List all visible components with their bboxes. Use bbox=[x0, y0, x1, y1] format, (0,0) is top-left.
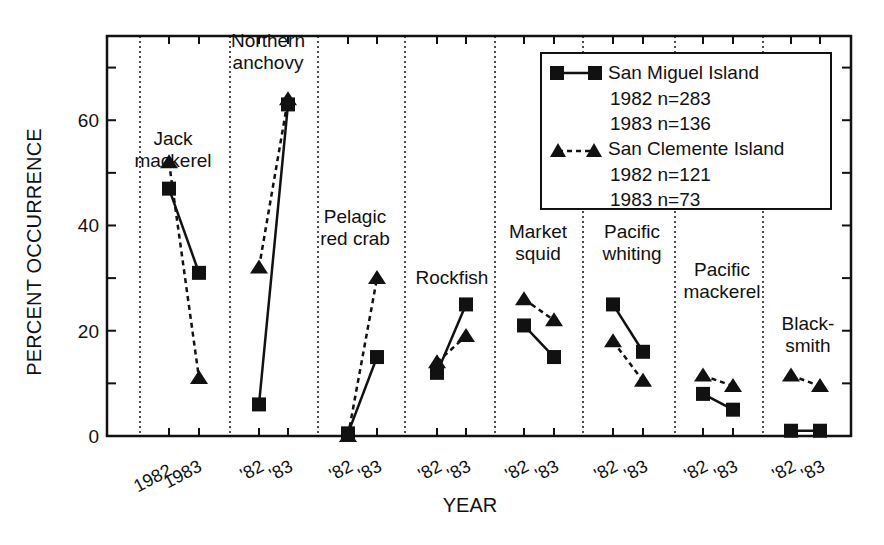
species-label: anchovy bbox=[233, 52, 304, 73]
x-tick-label: '83 bbox=[355, 456, 385, 485]
species-label: Pacific bbox=[604, 221, 660, 242]
san-clemente-triangle-marker bbox=[724, 378, 742, 392]
y-tick-label: 20 bbox=[78, 321, 99, 342]
legend: San Miguel Island 1982 n=283 1983 n=136 … bbox=[540, 52, 832, 210]
species-label: Northern bbox=[231, 30, 305, 51]
triangle-dashed-line-icon bbox=[548, 136, 604, 162]
legend-series2-n1983: 1983 n=73 bbox=[542, 187, 830, 212]
x-tick-label: '82 bbox=[681, 456, 711, 485]
y-tick-label: 60 bbox=[78, 110, 99, 131]
x-tick-label: '83 bbox=[266, 456, 296, 485]
san-clemente-triangle-marker bbox=[190, 370, 208, 384]
san-miguel-square-marker bbox=[606, 297, 620, 311]
san-miguel-square-marker bbox=[252, 397, 266, 411]
san-clemente-triangle-marker bbox=[457, 328, 475, 342]
san-clemente-triangle-marker bbox=[694, 367, 712, 381]
species-label: Rockfish bbox=[416, 267, 489, 288]
san-miguel-square-marker bbox=[547, 350, 561, 364]
species-label: Black- bbox=[782, 313, 835, 334]
x-tick-label: '82 bbox=[502, 456, 532, 485]
species-label: Pelagic bbox=[324, 206, 386, 227]
species-label: Market bbox=[509, 221, 568, 242]
san-clemente-triangle-marker bbox=[634, 373, 652, 387]
legend-series2-n1982: 1982 n=121 bbox=[542, 162, 830, 187]
species-label: red crab bbox=[320, 228, 390, 249]
san-clemente-triangle-marker bbox=[368, 270, 386, 284]
square-solid-line-icon bbox=[548, 60, 604, 86]
species-label: smith bbox=[785, 335, 830, 356]
san-clemente-triangle-marker bbox=[250, 260, 268, 274]
species-label: Jack bbox=[153, 128, 193, 149]
x-tick-label: '82 bbox=[769, 456, 799, 485]
legend-entry-san-clemente: San Clemente Island bbox=[542, 136, 830, 162]
san-miguel-square-marker bbox=[192, 266, 206, 280]
x-tick-label: 1983 bbox=[160, 456, 205, 492]
x-tick-label: '83 bbox=[798, 456, 828, 485]
san-miguel-square-marker bbox=[726, 403, 740, 417]
san-miguel-square-marker bbox=[370, 350, 384, 364]
y-axis-label: PERCENT OCCURRENCE bbox=[23, 107, 47, 397]
san-clemente-triangle-marker bbox=[604, 333, 622, 347]
san-miguel-line bbox=[169, 189, 199, 273]
species-label: mackerel bbox=[683, 281, 760, 302]
y-tick-label: 40 bbox=[78, 215, 99, 236]
san-miguel-square-marker bbox=[636, 345, 650, 359]
legend-series1-n1983: 1983 n=136 bbox=[542, 111, 830, 136]
san-miguel-square-marker bbox=[459, 297, 473, 311]
san-clemente-triangle-marker bbox=[811, 378, 829, 392]
san-clemente-triangle-marker bbox=[782, 367, 800, 381]
x-tick-label: '82 bbox=[237, 456, 267, 485]
san-clemente-triangle-marker bbox=[515, 291, 533, 305]
san-miguel-square-marker bbox=[162, 182, 176, 196]
san-miguel-line bbox=[259, 104, 288, 404]
x-tick-label: '82 bbox=[415, 456, 445, 485]
species-label: squid bbox=[515, 243, 560, 264]
san-miguel-line bbox=[348, 357, 377, 433]
legend-series1-n1982: 1982 n=283 bbox=[542, 86, 830, 111]
x-tick-label: '83 bbox=[621, 456, 651, 485]
san-miguel-square-marker bbox=[813, 424, 827, 438]
x-tick-label: '83 bbox=[532, 456, 562, 485]
x-tick-label: '82 bbox=[591, 456, 621, 485]
species-label: Pacific bbox=[694, 259, 750, 280]
san-miguel-square-marker bbox=[784, 424, 798, 438]
san-miguel-square-marker bbox=[696, 387, 710, 401]
species-label: whiting bbox=[601, 243, 661, 264]
y-tick-label: 0 bbox=[88, 426, 99, 447]
x-tick-label: '83 bbox=[444, 456, 474, 485]
legend-series1-name: San Miguel Island bbox=[608, 60, 759, 86]
legend-entry-san-miguel: San Miguel Island bbox=[542, 60, 830, 86]
san-miguel-square-marker bbox=[517, 318, 531, 332]
x-tick-label: '83 bbox=[711, 456, 741, 485]
x-tick-label: '82 bbox=[326, 456, 356, 485]
legend-series2-name: San Clemente Island bbox=[608, 136, 784, 162]
x-axis-label: YEAR bbox=[420, 494, 520, 517]
